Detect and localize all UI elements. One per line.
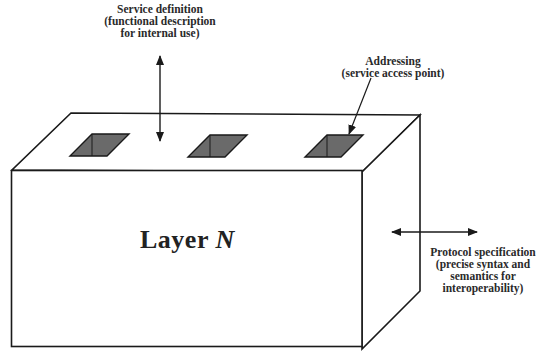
addressing-line-1: Addressing [338,55,448,67]
service-definition-line-1: Service definition [100,3,220,15]
protocol-specification-label: Protocol specification (precise syntax a… [427,246,539,294]
protocol-specification-line-1: Protocol specification [427,246,539,258]
layer-box-drawing [0,0,540,358]
layer-title-variable: N [215,225,234,254]
service-definition-line-3: for internal use) [100,27,220,39]
layer-title: Layer N [140,225,235,255]
service-definition-line-2: (functional description [100,15,220,27]
addressing-line-2: (service access point) [338,67,448,79]
box-front-face [12,171,363,347]
layer-title-word: Layer [140,225,208,254]
protocol-specification-line-3: semantics for [427,270,539,282]
service-definition-label: Service definition (functional descripti… [100,3,220,39]
addressing-label: Addressing (service access point) [338,55,448,79]
protocol-specification-line-2: (precise syntax and [427,258,539,270]
layer-diagram: Service definition (functional descripti… [0,0,540,358]
protocol-specification-line-4: interoperability) [427,282,539,294]
